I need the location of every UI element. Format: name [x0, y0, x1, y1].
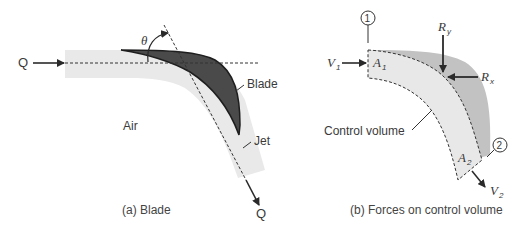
label-rx-sub: x: [489, 77, 495, 86]
label-a2-sub: 2: [466, 158, 472, 167]
label-jet: Jet: [254, 134, 271, 148]
panel-b-control-volume: 1 V 1 A 1 R y R x Control volume A 2 2 V…: [324, 11, 507, 217]
label-v2-sub: 2: [498, 191, 504, 200]
label-outflow-q: Q: [256, 206, 266, 221]
label-ry-sub: y: [446, 27, 452, 36]
label-inflow-q: Q: [18, 55, 28, 70]
caption-panel-a: (a) Blade: [122, 203, 171, 217]
label-ry: R: [437, 19, 446, 34]
caption-panel-b: (b) Forces on control volume: [350, 203, 503, 217]
label-a2: A: [457, 150, 466, 165]
label-air: Air: [123, 119, 138, 133]
label-a1: A: [372, 55, 381, 70]
section-2-label: 2: [497, 140, 503, 151]
label-theta: θ: [141, 33, 148, 48]
panel-a-blade: Q θ Blade Jet Air Q (a) Blade: [18, 25, 278, 221]
control-volume-leader: [412, 110, 432, 130]
label-a1-sub: 1: [382, 63, 386, 72]
label-rx: R: [480, 69, 489, 84]
diagram-canvas: Q θ Blade Jet Air Q (a) Blade 1 V 1 A 1 …: [0, 0, 524, 226]
label-blade: Blade: [247, 77, 278, 91]
section-1-label: 1: [365, 13, 371, 24]
label-v1-sub: 1: [336, 63, 340, 72]
v2-arrow: [472, 171, 485, 187]
outflow-arrow: [246, 180, 259, 205]
label-control-volume: Control volume: [324, 124, 405, 138]
